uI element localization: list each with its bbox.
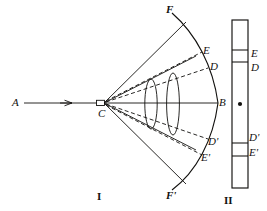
caption-panel-I: I bbox=[97, 191, 101, 202]
dashed-ray-to-E-prime bbox=[106, 105, 202, 155]
screen-panel bbox=[232, 20, 248, 188]
dashed-ray-to-E bbox=[106, 52, 202, 101]
incident-ray-arrowhead bbox=[60, 100, 72, 106]
lens-two bbox=[167, 73, 180, 135]
label-screen-D: D bbox=[251, 62, 259, 73]
ray-lower-inner bbox=[104, 103, 196, 150]
label-A: A bbox=[12, 97, 19, 108]
screen-center-dot bbox=[238, 102, 242, 106]
optics-diagram bbox=[0, 0, 267, 211]
label-B: B bbox=[219, 97, 226, 108]
incident-ray-group bbox=[24, 100, 100, 106]
focal-arc bbox=[172, 13, 218, 190]
ray-to-F bbox=[104, 22, 186, 103]
label-F-prime: F' bbox=[166, 190, 176, 201]
label-screen-E-prime: E' bbox=[249, 147, 258, 158]
label-C: C bbox=[98, 108, 105, 119]
label-arc-D: D bbox=[210, 61, 218, 72]
lens-one bbox=[145, 79, 157, 129]
figure-page: A C B F F' E D D' E' E D D' E' I II bbox=[0, 0, 267, 211]
label-F: F bbox=[166, 4, 173, 15]
label-screen-D-prime: D' bbox=[249, 132, 259, 143]
label-arc-D-prime: D' bbox=[208, 136, 218, 147]
label-arc-E: E bbox=[203, 45, 210, 56]
label-arc-E-prime: E' bbox=[201, 152, 210, 163]
label-screen-E: E bbox=[251, 48, 258, 59]
slit-aperture bbox=[97, 100, 105, 105]
caption-panel-II: II bbox=[224, 195, 233, 206]
